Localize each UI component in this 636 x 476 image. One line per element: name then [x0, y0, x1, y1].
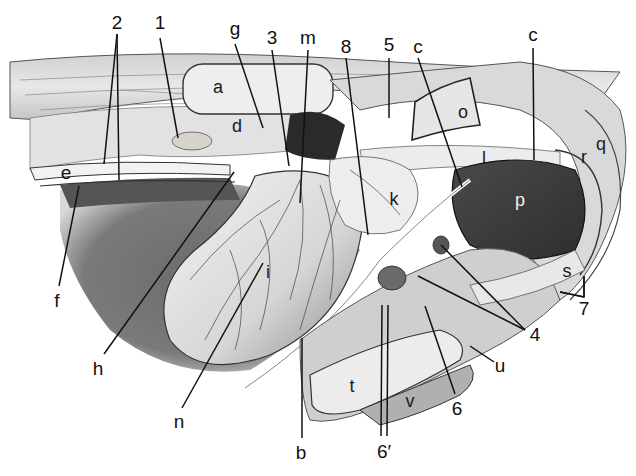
label-o: o — [458, 103, 468, 121]
label-q: q — [596, 135, 606, 153]
label-t: t — [349, 377, 354, 395]
label-4: 4 — [530, 325, 541, 344]
label-l: l — [482, 149, 486, 167]
label-n: n — [174, 412, 185, 431]
label-f: f — [54, 291, 59, 310]
label-2: 2 — [112, 13, 123, 32]
label-e: e — [61, 163, 72, 182]
label-1: 1 — [155, 13, 166, 32]
kidney-a — [183, 64, 333, 114]
label-b: b — [296, 443, 307, 462]
label-i: i — [266, 263, 270, 281]
label-6-prime: 6′ — [377, 442, 391, 461]
label-d: d — [232, 117, 242, 135]
label-h: h — [93, 359, 104, 378]
label-c-right: c — [528, 25, 538, 44]
label-u: u — [495, 356, 506, 375]
leader-line-6prime — [381, 305, 382, 436]
label-g: g — [230, 19, 241, 38]
label-7: 7 — [579, 299, 590, 318]
label-6: 6 — [452, 399, 463, 418]
label-s: s — [563, 262, 572, 280]
label-a: a — [213, 78, 223, 96]
label-8: 8 — [341, 37, 352, 56]
label-5: 5 — [384, 35, 395, 54]
label-m: m — [300, 28, 316, 47]
gland-4b — [378, 266, 406, 290]
leader-line-6prime — [387, 305, 388, 436]
label-v: v — [406, 392, 415, 410]
label-p: p — [515, 191, 525, 209]
leader-line-c2 — [533, 48, 534, 160]
label-k: k — [390, 190, 399, 208]
label-3: 3 — [267, 28, 278, 47]
label-r: r — [581, 148, 587, 166]
label-c-left: c — [413, 37, 423, 56]
anatomical-figure — [0, 0, 636, 476]
